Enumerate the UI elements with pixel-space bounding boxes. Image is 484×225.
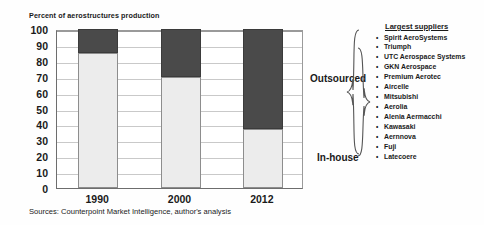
supplier-item: Aernnova xyxy=(373,132,484,142)
y-axis-tick: 90 xyxy=(18,41,48,52)
y-axis-tick: 10 xyxy=(18,168,48,179)
suppliers-heading: Largest suppliers xyxy=(385,22,484,31)
supplier-item: Alenia Aermacchi xyxy=(373,112,484,122)
supplier-item: Premium Aerotec xyxy=(373,72,484,82)
y-axis: 0102030405060708090100 xyxy=(18,0,48,225)
supplier-item: Fuji xyxy=(373,142,484,152)
y-axis-tick: 80 xyxy=(18,57,48,68)
bar-segment-outsourced xyxy=(243,29,283,129)
bar-segment-outsourced xyxy=(78,29,118,53)
bar-segment-in-house xyxy=(243,129,283,188)
suppliers-brace xyxy=(345,28,362,156)
supplier-item: Mitsubishi xyxy=(373,92,484,102)
y-axis-tick: 30 xyxy=(18,136,48,147)
supplier-item: GKN Aerospace xyxy=(373,62,484,72)
y-axis-tick: 100 xyxy=(18,25,48,36)
plot-area xyxy=(56,30,303,189)
supplier-item: Latecoere xyxy=(373,152,484,162)
supplier-item: UTC Aerospace Systems xyxy=(373,52,484,62)
y-axis-tick: 60 xyxy=(18,88,48,99)
y-axis-tick: 40 xyxy=(18,120,48,131)
bar-2012 xyxy=(243,29,283,188)
supplier-item: Triumph xyxy=(373,42,484,52)
x-axis-tick: 2012 xyxy=(250,193,273,205)
suppliers-panel: Largest suppliers Spirit AeroSystemsTriu… xyxy=(373,22,484,162)
suppliers-list: Spirit AeroSystemsTriumphUTC Aerospace S… xyxy=(373,33,484,162)
bar-segment-outsourced xyxy=(161,29,201,77)
x-axis-tick: 2000 xyxy=(168,193,191,205)
y-axis-tick: 0 xyxy=(18,184,48,195)
supplier-item: Kawasaki xyxy=(373,122,484,132)
supplier-item: Aircelle xyxy=(373,82,484,92)
supplier-item: Aerolia xyxy=(373,102,484,112)
x-axis-tick: 1990 xyxy=(85,193,108,205)
bar-segment-in-house xyxy=(78,53,118,188)
supplier-item: Spirit AeroSystems xyxy=(373,33,484,43)
bar-2000 xyxy=(161,29,201,188)
bar-segment-in-house xyxy=(161,77,201,188)
source-note: Sources: Counterpoint Market Intelligenc… xyxy=(29,207,231,216)
y-axis-tick: 50 xyxy=(18,104,48,115)
bar-1990 xyxy=(78,29,118,188)
y-axis-tick: 70 xyxy=(18,72,48,83)
y-axis-tick: 20 xyxy=(18,152,48,163)
